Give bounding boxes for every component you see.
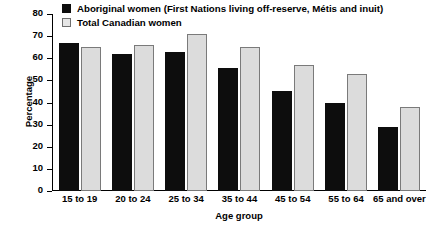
x-tick-label: 15 to 19 [53, 193, 106, 204]
bar-group [319, 14, 372, 191]
bar-aboriginal-women [272, 91, 292, 191]
y-tick-mark [47, 125, 52, 126]
y-tick-label: 30 [19, 118, 43, 129]
bar-aboriginal-women [378, 127, 398, 191]
y-tick-mark [47, 103, 52, 104]
bar-aboriginal-women [218, 68, 238, 191]
y-tick-label: 10 [19, 162, 43, 173]
bar-total-canadian-women [400, 107, 420, 191]
bar-total-canadian-women [240, 47, 260, 191]
y-tick-label: 60 [19, 51, 43, 62]
y-tick-label: 0 [19, 184, 43, 195]
x-tick-label: 45 to 54 [266, 193, 319, 204]
y-tick-mark [47, 191, 52, 192]
y-tick-label: 40 [19, 96, 43, 107]
bar-aboriginal-women [165, 52, 185, 191]
chart-legend: Aboriginal women (First Nations living o… [62, 2, 383, 30]
legend-item-aboriginal-women: Aboriginal women (First Nations living o… [62, 2, 383, 15]
legend-item-total-canadian-women: Total Canadian women [62, 16, 383, 29]
y-tick-label: 20 [19, 140, 43, 151]
legend-swatch-outlined-gray-square [62, 18, 71, 27]
x-tick-label: 25 to 34 [160, 193, 213, 204]
legend-swatch-filled-black-square [62, 4, 71, 13]
y-tick-label: 80 [19, 7, 43, 18]
bar-total-canadian-women [81, 47, 101, 191]
bar-aboriginal-women [112, 54, 132, 191]
bar-group [160, 14, 213, 191]
x-tick-label: 55 to 64 [319, 193, 372, 204]
y-tick-mark [47, 36, 52, 37]
legend-label: Aboriginal women (First Nations living o… [77, 4, 383, 14]
bar-group [106, 14, 159, 191]
bar-total-canadian-women [187, 34, 207, 191]
y-tick-mark [47, 169, 52, 170]
y-tick-mark [47, 80, 52, 81]
y-tick-mark [47, 14, 52, 15]
bar-group [373, 14, 426, 191]
bar-total-canadian-women [294, 65, 314, 191]
x-tick-label: 35 to 44 [213, 193, 266, 204]
y-tick-mark [47, 147, 52, 148]
bar-group [53, 14, 106, 191]
bar-group [213, 14, 266, 191]
y-tick-label: 70 [19, 29, 43, 40]
bar-aboriginal-women [325, 103, 345, 192]
bar-chart: Percentage 01020304050607080 15 to 1920 … [0, 0, 444, 233]
bar-total-canadian-women [347, 74, 367, 191]
y-tick-mark [47, 58, 52, 59]
x-tick-label: 65 and over [373, 193, 426, 204]
bar-groups [53, 14, 426, 191]
x-tick-label: 20 to 24 [106, 193, 159, 204]
bar-aboriginal-women [59, 43, 79, 191]
x-axis-title: Age group [52, 210, 426, 221]
plot-area: 01020304050607080 [52, 14, 426, 191]
x-axis-tick-labels: 15 to 1920 to 2425 to 3435 to 4445 to 54… [53, 193, 426, 204]
bar-group [266, 14, 319, 191]
y-tick-label: 50 [19, 73, 43, 84]
legend-label: Total Canadian women [77, 18, 182, 28]
bar-total-canadian-women [134, 45, 154, 191]
